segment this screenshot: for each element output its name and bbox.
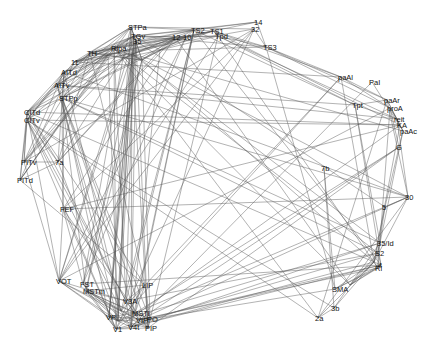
edge — [20, 120, 27, 180]
node-label-vot: VOT — [56, 277, 72, 286]
node-label-mstm: MSTm — [83, 287, 105, 296]
node-label-7a: 7a — [55, 158, 64, 167]
node-label-citv: CITv — [24, 116, 40, 125]
node-label-tpt: Tpt — [352, 101, 364, 110]
node-label-35: 35 — [133, 37, 141, 46]
edge — [385, 147, 399, 207]
network-diagram: STPaTS2TS13214TpdTGv351210TS3THRipa11AIT… — [0, 0, 438, 345]
edge — [213, 31, 341, 77]
edges-layer — [20, 22, 408, 329]
edge — [118, 243, 380, 321]
node-label-ripa: Ripa — [111, 44, 127, 53]
node-label-aitd: AITd — [61, 68, 77, 77]
node-label-fef: FEF — [60, 205, 75, 214]
node-label-11: 11 — [71, 58, 79, 67]
edge — [63, 197, 408, 209]
edge — [218, 36, 355, 105]
node-label-stpa: STPa — [128, 23, 148, 32]
node-label-paal: paAl — [338, 73, 353, 82]
edge — [142, 60, 374, 262]
connectivity-graph: STPaTS2TS13214TpdTGv351210TS3THRipa11AIT… — [0, 0, 438, 345]
edge — [27, 72, 64, 112]
node-label-ts3: TS3 — [263, 43, 277, 52]
node-label-v1: V1 — [113, 325, 122, 334]
edge — [194, 30, 355, 105]
node-label-v3a: V3A — [123, 297, 137, 306]
edge — [148, 36, 218, 328]
node-label-30: 30 — [405, 193, 413, 202]
node-label-g: G — [396, 143, 402, 152]
node-label-s2: S2 — [375, 249, 384, 258]
edge — [135, 147, 399, 313]
edge — [194, 30, 381, 265]
node-label-ts2: TS2 — [191, 26, 205, 35]
node-label-5: 5 — [382, 203, 386, 212]
edge — [114, 48, 350, 285]
node-label-14: 14 — [254, 18, 262, 27]
node-label-paac: paAc — [400, 127, 417, 136]
node-label-12: 12 — [172, 33, 180, 42]
node-label-th: TH — [87, 49, 97, 58]
node-label-pitv: PITv — [21, 158, 37, 167]
node-label-v4t: V4t — [128, 323, 140, 332]
node-label-pitd: PITd — [17, 176, 33, 185]
node-label-pip: PIP — [145, 324, 157, 333]
node-label-stpp: STPp — [59, 94, 78, 103]
edge — [57, 85, 397, 119]
node-label-pai: PaI — [369, 78, 380, 87]
node-label-vp: VP — [106, 313, 116, 322]
node-label-10: 10 — [183, 33, 191, 42]
node-label-35-id: 35/Id — [377, 239, 394, 248]
edge — [139, 197, 408, 320]
node-label-7b: 7b — [321, 164, 329, 173]
node-label-tpd: Tpd — [215, 32, 228, 41]
edge — [266, 47, 341, 77]
node-label-3b: 3b — [331, 304, 339, 313]
edge — [139, 147, 399, 320]
node-label-aitv: AITv — [54, 81, 70, 90]
node-label-po: PO — [147, 315, 158, 324]
edge — [63, 72, 64, 209]
node-label-2a: 2a — [315, 314, 324, 323]
node-label-sma: SMA — [332, 285, 348, 294]
edge — [131, 265, 381, 327]
edge — [175, 37, 350, 285]
edge — [318, 100, 387, 318]
node-label-4: 4 — [378, 261, 382, 270]
node-label-lip: LIP — [142, 281, 153, 290]
node-label-proa: proA — [387, 104, 403, 113]
